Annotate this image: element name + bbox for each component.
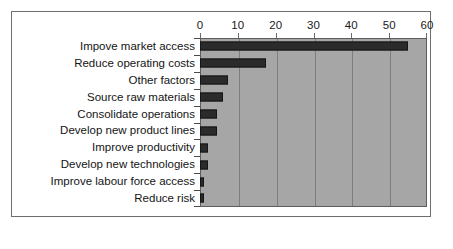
bar-slot	[200, 122, 427, 139]
x-tick-label-10: 10	[218, 19, 258, 31]
bar[interactable]	[200, 143, 208, 152]
category-axis-labels: Impove market accessReduce operating cos…	[20, 38, 200, 207]
x-tick-label-30: 30	[294, 19, 334, 31]
category-label: Develop new product lines	[60, 122, 200, 139]
bar-slot	[200, 38, 427, 55]
bar[interactable]	[200, 177, 204, 186]
bar-series	[200, 38, 427, 207]
bar[interactable]	[200, 160, 208, 169]
category-label-row: Impove market access	[20, 38, 200, 55]
category-label-row: Source raw materials	[20, 89, 200, 106]
category-label: Develop new technologies	[61, 156, 200, 173]
bar-slot	[200, 156, 427, 173]
category-label-row: Reduce operating costs	[20, 55, 200, 72]
x-tick-label-20: 20	[256, 19, 296, 31]
x-tick-label-40: 40	[331, 19, 371, 31]
category-label-row: Other factors	[20, 72, 200, 89]
category-label: Improve labour force access	[51, 173, 200, 190]
category-label-row: Improve productivity	[20, 139, 200, 156]
category-label: Improve productivity	[92, 139, 200, 156]
bar[interactable]	[200, 42, 408, 51]
bar[interactable]	[200, 93, 223, 102]
category-label-row: Develop new technologies	[20, 156, 200, 173]
category-label-row: Develop new product lines	[20, 122, 200, 139]
x-tick-label-0: 0	[180, 19, 220, 31]
category-label-row: Improve labour force access	[20, 173, 200, 190]
category-label: Source raw materials	[87, 89, 200, 106]
bar[interactable]	[200, 194, 204, 203]
bar-slot	[200, 190, 427, 207]
category-label: Reduce operating costs	[74, 55, 200, 72]
bar[interactable]	[200, 126, 217, 135]
bar[interactable]	[200, 59, 266, 68]
bar-slot	[200, 89, 427, 106]
bar[interactable]	[200, 110, 217, 119]
x-tick-label-60: 60	[407, 19, 447, 31]
bar-slot	[200, 55, 427, 72]
category-label: Impove market access	[80, 38, 200, 55]
category-label: Other factors	[129, 72, 200, 89]
category-label: Consolidate operations	[77, 106, 200, 123]
category-label: Reduce risk	[134, 190, 200, 207]
bar-slot	[200, 173, 427, 190]
bar[interactable]	[200, 76, 228, 85]
category-label-row: Reduce risk	[20, 190, 200, 207]
x-tick-label-50: 50	[369, 19, 409, 31]
bar-slot	[200, 72, 427, 89]
category-label-row: Consolidate operations	[20, 106, 200, 123]
bar-slot	[200, 139, 427, 156]
chart-figure: 0 10 20 30 40 50 60 Impove market access…	[0, 0, 453, 249]
bar-slot	[200, 106, 427, 123]
